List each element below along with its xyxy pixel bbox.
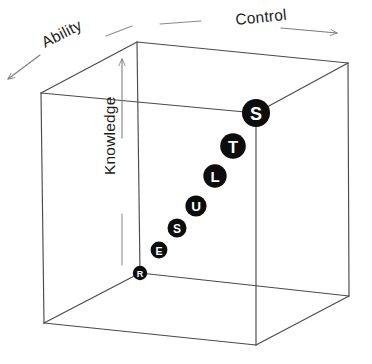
axis-lead-line-ability [106,26,132,36]
node-u-letter: U [191,199,201,214]
axis-label-knowledge: Knowledge [101,97,118,176]
cube-edge-front_bottom_right-to-front_bottom_left [140,273,349,296]
node-l-letter: L [210,168,219,185]
node-t-letter: T [228,138,238,156]
cube-edge-front_top_left-to-back_top_left [41,42,137,93]
axis-lead-line-control [160,21,201,24]
results-cube-figure: ControlAbilityKnowledge RESULTS [0,0,372,364]
cube-edge-front_top_right-to-back_top_right [256,63,348,113]
node-e-letter: E [155,245,162,257]
cube-edge-back_top_left-to-back_top_right [41,93,256,113]
node-r-letter: R [137,269,144,279]
cube-edge-back_bottom_right-to-back_bottom_left [44,323,256,345]
axis-arrow-control [281,28,337,33]
diagram-canvas: ControlAbilityKnowledge RESULTS [0,0,372,364]
result-nodes: RESULTS [133,99,270,280]
axis-label-control: Control [235,6,288,28]
cube-edge-front_bottom_left-to-back_bottom_left [44,273,140,323]
node-s2-letter: S [250,104,262,124]
node-s1-letter: S [173,222,181,236]
axis-labels: ControlAbilityKnowledge [39,6,288,175]
node-t[interactable]: T [220,133,246,159]
cube-edge-back_bottom_left-to-back_top_left [41,93,44,323]
node-e[interactable]: E [151,242,168,259]
cube-wireframe [41,42,349,345]
node-s1[interactable]: S [168,219,187,238]
node-u[interactable]: U [185,195,206,216]
cube-edge-front_top_right-to-front_bottom_right [348,63,349,296]
cube-edge-front_top_left-to-front_top_right [137,42,348,63]
cube-edge-front_bottom_left-to-front_top_left [137,42,140,273]
node-r[interactable]: R [133,266,147,280]
axis-arrow-ability [8,55,40,79]
axis-label-ability: Ability [39,16,85,51]
node-l[interactable]: L [203,164,226,187]
node-s2[interactable]: S [242,99,270,127]
cube-edge-front_bottom_right-to-back_bottom_right [256,296,349,345]
